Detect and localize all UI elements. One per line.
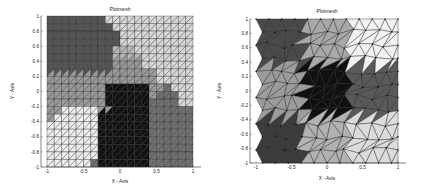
svg-text:0.2: 0.2 (242, 74, 249, 79)
svg-text:-1: -1 (45, 169, 50, 174)
svg-text:1: 1 (397, 165, 400, 170)
svg-text:-0.6: -0.6 (240, 132, 248, 137)
x-axis-label: X - Axis (112, 179, 129, 184)
svg-text:-0.8: -0.8 (240, 146, 248, 151)
chart-title: Plotmesh (317, 8, 338, 14)
svg-text:0.2: 0.2 (33, 74, 40, 79)
svg-text:-1: -1 (244, 161, 249, 166)
svg-text:0.6: 0.6 (33, 44, 40, 49)
left-plot: Plotmesh -1-0.500.5110.80.60.40.20-0.2-0… (0, 0, 215, 189)
svg-text:-0.4: -0.4 (240, 117, 248, 122)
svg-text:-0.5: -0.5 (288, 165, 296, 170)
svg-text:0: 0 (245, 89, 248, 94)
svg-text:-0.2: -0.2 (240, 103, 248, 108)
svg-text:0.8: 0.8 (33, 29, 40, 34)
svg-text:-1: -1 (35, 165, 40, 170)
plot-area (255, 18, 398, 163)
svg-text:1: 1 (36, 14, 39, 19)
chart-title: Plotmesh (110, 6, 131, 12)
svg-text:0.5: 0.5 (153, 169, 160, 174)
svg-text:0.6: 0.6 (242, 45, 249, 50)
svg-text:0.4: 0.4 (33, 59, 40, 64)
svg-text:0.5: 0.5 (359, 165, 366, 170)
svg-text:0.8: 0.8 (242, 31, 249, 36)
svg-text:-0.8: -0.8 (31, 150, 39, 155)
y-axis-label: Y - Axis (10, 82, 15, 99)
svg-text:0: 0 (36, 89, 39, 94)
x-axis-label: X - Axis (319, 176, 336, 181)
svg-text:-0.4: -0.4 (31, 119, 39, 124)
structured-mesh-chart: Plotmesh -1-0.500.5110.80.60.40.20-0.2-0… (0, 0, 215, 189)
svg-text:-0.5: -0.5 (80, 169, 88, 174)
svg-text:1: 1 (245, 17, 248, 22)
plot-area (47, 16, 193, 167)
unstructured-mesh-chart: Plotmesh -1-0.500.5110.80.60.40.20-0.2-0… (215, 0, 430, 189)
svg-text:-1: -1 (254, 165, 259, 170)
y-axis-label: Y - Axis (217, 82, 222, 99)
right-plot: Plotmesh -1-0.500.5110.80.60.40.20-0.2-0… (215, 0, 430, 189)
svg-text:-0.6: -0.6 (31, 134, 39, 139)
svg-text:0.4: 0.4 (242, 60, 249, 65)
svg-text:0: 0 (326, 165, 329, 170)
svg-text:1: 1 (192, 169, 195, 174)
svg-text:0: 0 (119, 169, 122, 174)
svg-text:-0.2: -0.2 (31, 104, 39, 109)
